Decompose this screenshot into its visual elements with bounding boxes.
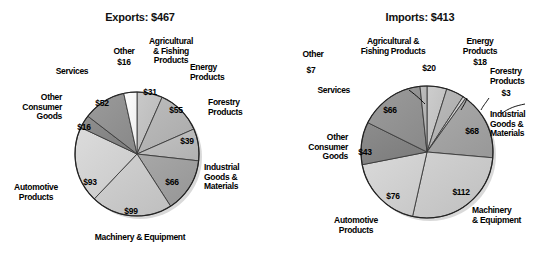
exports-label-machinery-equipment: Machinery & Equipment — [80, 233, 200, 243]
imports-label-services: Services — [288, 86, 350, 96]
imports-label-other: Other — [290, 50, 336, 60]
imports-chart-title: Imports: $413 — [280, 11, 560, 23]
exports-label-forestry-products: Forestry Products — [208, 98, 266, 117]
exports-value-forestry: $39 — [180, 136, 193, 146]
exports-value-agricultural: $31 — [143, 87, 156, 97]
leader-line — [481, 98, 489, 110]
exports-label-industrial-goods: Industrial Goods & Materials — [204, 163, 266, 192]
exports-value-energy: $55 — [169, 105, 182, 115]
exports-value-other-consumer: $16 — [77, 122, 90, 132]
imports-label-industrial-goods: Industrial Goods & Materials — [490, 110, 552, 139]
imports-value-other: $7 — [307, 65, 316, 75]
imports-value-services: $66 — [383, 105, 396, 115]
exports-value-automotive: $93 — [83, 177, 96, 187]
exports-value-industrial: $66 — [165, 177, 178, 187]
imports-label-energy-products: Energy Products — [452, 37, 508, 56]
imports-value-agricultural: $20 — [422, 63, 435, 73]
imports-label-agricultural-fishing: Agricultural & Fishing Products — [342, 37, 444, 56]
imports-label-forestry-products: Forestry Products — [490, 67, 546, 86]
imports-chart-panel: Imports: $413 $20 $68 $112 $76 $43 $66 O… — [280, 0, 560, 260]
imports-value-forestry: $3 — [502, 88, 511, 98]
top-crop-mask — [0, 0, 560, 7]
exports-label-automotive-products: Automotive Products — [5, 183, 67, 202]
exports-label-other-consumer-goods: Other Consumer Goods — [0, 93, 62, 122]
exports-value-machinery: $99 — [124, 206, 137, 216]
imports-label-other-consumer-goods: Other Consumer Goods — [282, 133, 348, 162]
exports-chart-title: Exports: $467 — [0, 11, 280, 23]
imports-label-machinery-equipment: Machinery & Equipment — [472, 206, 550, 225]
imports-value-automotive: $76 — [386, 191, 399, 201]
imports-label-automotive-products: Automotive Products — [320, 216, 392, 235]
exports-label-services: Services — [43, 67, 101, 77]
imports-value-other-consumer: $43 — [358, 147, 371, 157]
imports-value-machinery: $112 — [452, 187, 469, 197]
exports-value-other: $16 — [117, 57, 130, 67]
exports-chart-panel: Exports: $467 $31 $55 $39 $66 $99 $93 $1… — [0, 0, 280, 260]
imports-value-industrial: $68 — [465, 126, 478, 136]
exports-label-energy-products: Energy Products — [190, 63, 244, 82]
exports-value-services: $52 — [95, 98, 108, 108]
exports-label-agricultural-fishing: Agricultural & Fishing Products — [140, 37, 202, 66]
imports-value-energy: $18 — [473, 57, 486, 67]
